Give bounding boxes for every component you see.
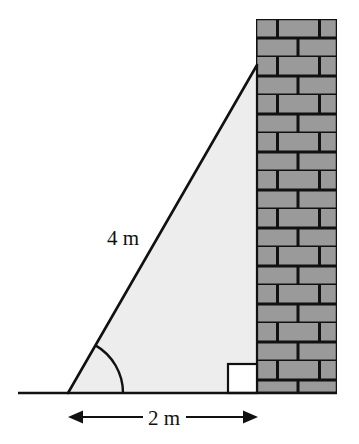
base-label: 2 m [148,406,180,430]
right-angle-marker-icon [228,364,257,393]
brick-wall-face [256,19,337,393]
geometry-figure: 4 m 2 m [0,0,359,444]
arrow-right-icon [243,411,258,424]
brick-wall [256,19,337,393]
hypotenuse-label: 4 m [107,226,139,250]
arrow-left-icon [68,411,83,424]
base-dimension: 2 m [68,406,258,430]
figure-canvas: 4 m 2 m [0,0,359,444]
